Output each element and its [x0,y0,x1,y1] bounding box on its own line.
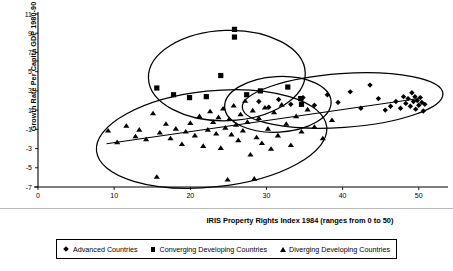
data-point-diamond [408,104,413,109]
group-ellipse-diverging-group [91,79,331,199]
data-point-triangle [283,121,289,126]
y-tick-label: -5 [10,164,32,171]
data-point-diamond [398,105,403,110]
data-point-triangle [226,116,232,121]
data-point-triangle [225,177,231,182]
data-point-triangle [265,126,271,131]
data-point-triangle [268,146,274,151]
data-point-triangle [250,108,256,113]
data-point-square [232,34,237,39]
data-point-diamond [376,96,381,101]
legend-label-advanced: Advanced Countries [73,245,138,254]
y-tick-label: -3 [10,145,32,152]
data-point-triangle [136,127,142,132]
data-point-diamond [383,107,388,112]
x-tick-label: 40 [331,192,355,199]
data-point-triangle [200,143,206,148]
data-point-triangle [240,128,246,133]
x-tick-label: 20 [178,192,202,199]
data-point-triangle [207,109,213,114]
square-marker-icon [150,246,157,253]
triangle-marker-icon [279,246,286,253]
data-point-triangle [179,141,185,146]
data-point-triangle [304,107,310,112]
data-point-square [299,102,304,107]
legend-item-diverging: Diverging Developing Countries [279,245,390,254]
trend-line [107,99,419,144]
y-tick-label: 9 [10,30,32,37]
y-tick-label: 5 [10,68,32,75]
diamond-marker-icon [63,246,70,253]
y-tick-label: 7 [10,49,32,56]
data-point-diamond [388,104,393,109]
data-point-square [171,92,176,97]
scatter-chart-figure: Growth Rate Per Capita GDP 1980-90 -7-5-… [0,0,453,271]
data-point-diamond [401,94,406,99]
data-point-triangle [132,134,138,139]
data-point-square [285,84,290,89]
legend-label-converging: Converging Developing Countries [160,245,267,254]
data-point-triangle [167,136,173,141]
y-tick-label: 3 [10,87,32,94]
data-point-diamond [335,100,340,105]
data-point-square [218,73,223,78]
data-point-square [204,94,209,99]
data-point-triangle [247,152,253,157]
data-point-diamond [256,99,261,104]
data-point-triangle [244,119,250,124]
y-tick-label: 11 [10,11,32,18]
y-tick-label: -7 [10,184,32,191]
group-ellipse-converging-group [147,28,307,124]
data-point-triangle [275,133,281,138]
x-tick-label: 0 [26,192,50,199]
data-point-square [258,88,263,93]
data-point-triangle [187,120,193,125]
data-point-triangle [279,102,285,107]
x-tick-label: 10 [102,192,126,199]
data-point-triangle [150,111,156,116]
data-point-triangle [259,140,265,145]
data-point-diamond [348,89,353,94]
data-point-triangle [242,98,248,103]
data-point-triangle [163,121,169,126]
data-point-diamond [325,92,330,97]
data-point-diamond [276,97,281,102]
data-point-triangle [154,174,160,179]
x-axis-title: IRIS Property Rights Index 1984 (ranges … [150,216,450,225]
data-point-triangle [196,114,202,119]
chart-legend: Advanced Countries Converging Developing… [56,239,397,259]
data-point-triangle [228,132,234,137]
data-point-diamond [409,90,414,95]
data-point-triangle [253,135,259,140]
legend-item-advanced: Advanced Countries [63,245,138,254]
data-point-diamond [403,101,408,106]
data-point-square [232,27,237,32]
data-point-triangle [183,129,189,134]
data-point-triangle [123,123,129,128]
data-point-triangle [192,133,198,138]
legend-label-diverging: Diverging Developing Countries [289,245,390,254]
data-point-triangle [231,103,237,108]
data-point-triangle [173,126,179,131]
data-point-diamond [393,99,398,104]
x-tick-label: 50 [407,192,431,199]
data-point-square [187,95,192,100]
data-point-square [244,92,249,97]
data-point-square [154,85,159,90]
y-tick-label: -1 [10,126,32,133]
data-point-triangle [213,131,219,136]
data-point-triangle [237,112,243,117]
data-point-diamond [421,108,426,113]
data-point-triangle [288,142,294,147]
data-point-square [298,96,303,101]
y-tick-label: 1 [10,107,32,114]
data-point-triangle [251,176,257,181]
legend-item-converging: Converging Developing Countries [150,245,267,254]
data-point-diamond [413,106,418,111]
figure-divider [0,208,453,209]
data-point-triangle [329,117,335,122]
data-point-triangle [218,145,224,150]
data-point-triangle [235,138,241,143]
data-point-triangle [215,115,221,120]
data-point-triangle [157,130,163,135]
